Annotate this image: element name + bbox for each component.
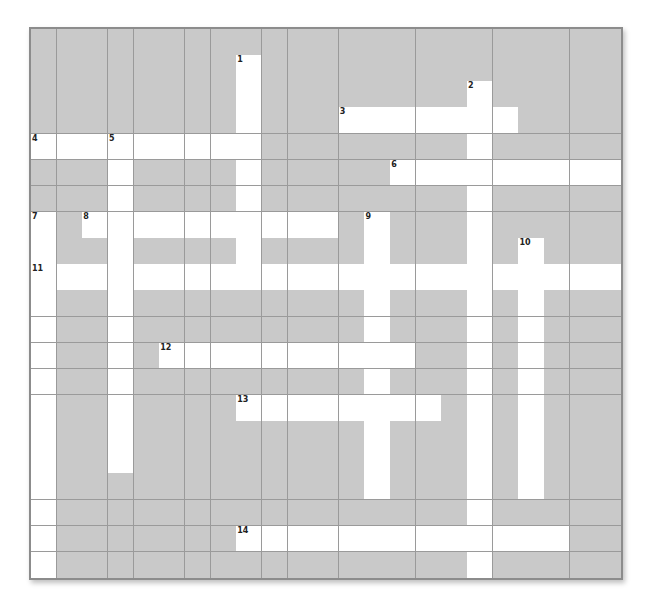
answer-cell[interactable] (518, 526, 544, 553)
answer-cell[interactable] (108, 238, 134, 265)
answer-cell[interactable] (211, 343, 237, 370)
answer-cell[interactable] (108, 317, 134, 344)
answer-cell[interactable]: 2 (467, 81, 493, 108)
answer-cell[interactable]: 5 (108, 134, 134, 161)
answer-cell[interactable] (31, 290, 57, 317)
answer-cell[interactable] (134, 264, 160, 291)
answer-cell[interactable] (82, 264, 108, 291)
answer-cell[interactable]: 14 (236, 526, 262, 553)
answer-cell[interactable] (595, 160, 621, 187)
answer-cell[interactable] (467, 395, 493, 422)
answer-cell[interactable] (416, 160, 442, 187)
answer-cell[interactable] (339, 526, 365, 553)
answer-cell[interactable] (134, 212, 160, 239)
answer-cell[interactable] (493, 526, 519, 553)
answer-cell[interactable] (31, 473, 57, 500)
answer-cell[interactable] (518, 421, 544, 448)
answer-cell[interactable] (493, 107, 519, 134)
answer-cell[interactable] (31, 395, 57, 422)
answer-cell[interactable] (364, 238, 390, 265)
answer-cell[interactable] (467, 447, 493, 474)
answer-cell[interactable] (134, 134, 160, 161)
answer-cell[interactable] (390, 526, 416, 553)
answer-cell[interactable] (467, 160, 493, 187)
answer-cell[interactable] (493, 160, 519, 187)
answer-cell[interactable] (31, 526, 57, 553)
answer-cell[interactable] (31, 369, 57, 396)
answer-cell[interactable] (467, 290, 493, 317)
answer-cell[interactable] (364, 421, 390, 448)
answer-cell[interactable] (159, 134, 185, 161)
answer-cell[interactable] (31, 421, 57, 448)
answer-cell[interactable]: 6 (390, 160, 416, 187)
answer-cell[interactable] (262, 264, 288, 291)
answer-cell[interactable]: 13 (236, 395, 262, 422)
answer-cell[interactable] (339, 395, 365, 422)
answer-cell[interactable]: 10 (518, 238, 544, 265)
answer-cell[interactable] (82, 134, 108, 161)
answer-cell[interactable] (262, 526, 288, 553)
answer-cell[interactable] (288, 264, 314, 291)
answer-cell[interactable] (313, 343, 339, 370)
answer-cell[interactable] (518, 473, 544, 500)
answer-cell[interactable] (364, 264, 390, 291)
answer-cell[interactable] (518, 317, 544, 344)
answer-cell[interactable] (467, 134, 493, 161)
answer-cell[interactable] (211, 264, 237, 291)
answer-cell[interactable] (57, 264, 83, 291)
answer-cell[interactable] (262, 212, 288, 239)
answer-cell[interactable] (493, 264, 519, 291)
answer-cell[interactable] (339, 343, 365, 370)
answer-cell[interactable] (339, 264, 365, 291)
answer-cell[interactable] (390, 343, 416, 370)
answer-cell[interactable]: 8 (82, 212, 108, 239)
answer-cell[interactable] (236, 264, 262, 291)
answer-cell[interactable] (416, 526, 442, 553)
answer-cell[interactable] (467, 343, 493, 370)
answer-cell[interactable] (467, 317, 493, 344)
answer-cell[interactable] (313, 395, 339, 422)
answer-cell[interactable] (518, 369, 544, 396)
answer-cell[interactable] (467, 421, 493, 448)
answer-cell[interactable] (57, 134, 83, 161)
answer-cell[interactable] (518, 395, 544, 422)
answer-cell[interactable] (364, 395, 390, 422)
answer-cell[interactable] (159, 264, 185, 291)
answer-cell[interactable]: 3 (339, 107, 365, 134)
answer-cell[interactable] (288, 395, 314, 422)
answer-cell[interactable] (159, 212, 185, 239)
answer-cell[interactable] (236, 160, 262, 187)
answer-cell[interactable] (108, 395, 134, 422)
answer-cell[interactable] (467, 526, 493, 553)
answer-cell[interactable] (364, 290, 390, 317)
answer-cell[interactable] (518, 160, 544, 187)
answer-cell[interactable] (288, 343, 314, 370)
answer-cell[interactable] (570, 160, 596, 187)
answer-cell[interactable] (467, 212, 493, 239)
answer-cell[interactable] (185, 212, 211, 239)
answer-cell[interactable] (364, 473, 390, 500)
answer-cell[interactable] (441, 264, 467, 291)
answer-cell[interactable] (211, 134, 237, 161)
answer-cell[interactable] (108, 264, 134, 291)
answer-cell[interactable] (313, 264, 339, 291)
answer-cell[interactable] (108, 160, 134, 187)
answer-cell[interactable] (364, 447, 390, 474)
answer-cell[interactable] (364, 343, 390, 370)
answer-cell[interactable] (108, 421, 134, 448)
answer-cell[interactable] (236, 238, 262, 265)
answer-cell[interactable] (364, 526, 390, 553)
answer-cell[interactable] (416, 395, 442, 422)
answer-cell[interactable] (108, 186, 134, 213)
answer-cell[interactable] (288, 526, 314, 553)
answer-cell[interactable] (185, 134, 211, 161)
answer-cell[interactable] (31, 447, 57, 474)
answer-cell[interactable] (288, 212, 314, 239)
answer-cell[interactable] (390, 264, 416, 291)
answer-cell[interactable] (544, 264, 570, 291)
answer-cell[interactable] (31, 343, 57, 370)
answer-cell[interactable] (236, 343, 262, 370)
answer-cell[interactable] (108, 447, 134, 474)
answer-cell[interactable] (236, 81, 262, 108)
answer-cell[interactable] (185, 343, 211, 370)
